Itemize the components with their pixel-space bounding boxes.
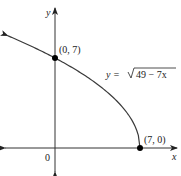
point-marker [52,55,58,61]
x-axis-label: x [171,151,177,162]
point-label: (7, 0) [144,134,166,146]
origin-label: 0 [45,152,50,163]
function-graph: (0, 7)(7, 0) x y 0 y = 49 − 7x [0,0,181,176]
y-axis-label: y [45,7,51,18]
point-marker [137,145,143,151]
point-label: (0, 7) [59,44,81,56]
function-label: y = 49 − 7x [105,68,176,80]
equation-prefix: y = [105,69,120,80]
equation-radicand: 49 − 7x [136,69,167,80]
